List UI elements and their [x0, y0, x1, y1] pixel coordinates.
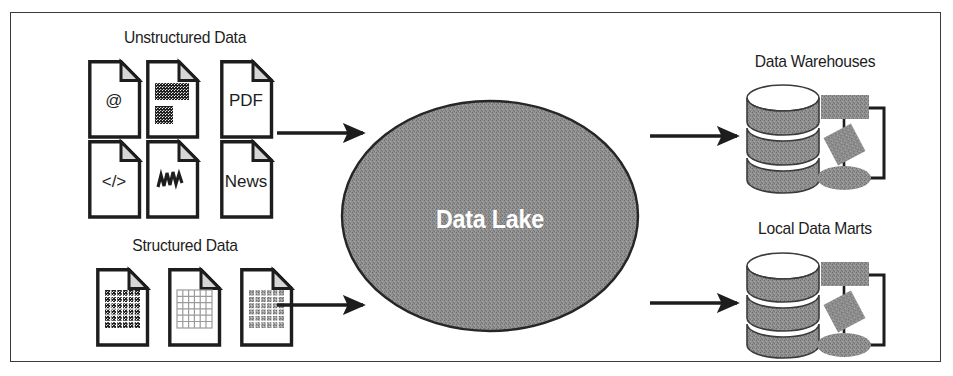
image-document-icon: [148, 62, 198, 137]
unstructured-data-label: Unstructured Data: [102, 28, 268, 48]
data-lake-diagram: @ PDF </> News: [0, 0, 953, 376]
code-document-icon: </>: [90, 142, 140, 217]
process-flow-marts: [817, 262, 884, 357]
data-warehouses-label: Data Warehouses: [732, 52, 898, 72]
structured-documents-group: [98, 270, 292, 345]
shaded-grid-document-icon: [242, 270, 292, 345]
svg-text:PDF: PDF: [229, 91, 263, 110]
structured-data-label: Structured Data: [107, 236, 263, 256]
data-warehouses-cluster: [747, 85, 884, 193]
email-document-icon: @: [90, 62, 140, 137]
svg-text:@: @: [105, 91, 122, 110]
database-cylinder-marts: [747, 253, 819, 358]
pdf-document-icon: PDF: [222, 62, 272, 137]
news-document-icon: News: [222, 142, 272, 217]
process-flow-warehouses: [817, 95, 884, 190]
outline-grid-document-icon: [170, 270, 220, 345]
audio-waveform-document-icon: [148, 142, 198, 217]
database-cylinder-warehouses: [747, 85, 819, 193]
svg-text:News: News: [225, 172, 268, 191]
unstructured-documents-group: @ PDF </> News: [90, 62, 272, 217]
svg-text:</>: </>: [102, 172, 127, 191]
data-lake-ellipse: [342, 101, 638, 331]
local-data-marts-cluster: [747, 253, 884, 358]
dense-grid-document-icon: [98, 270, 148, 345]
local-data-marts-label: Local Data Marts: [732, 219, 898, 239]
